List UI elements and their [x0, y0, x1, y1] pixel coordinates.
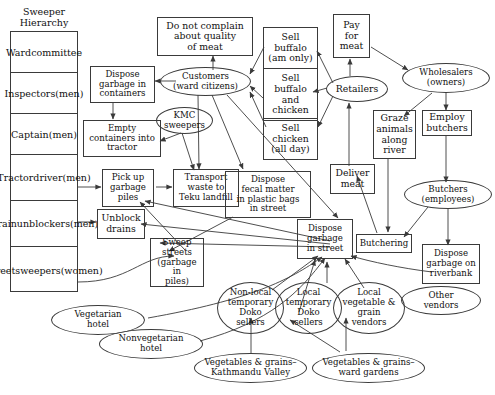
node-other-vendors[interactable]: Other vendors [401, 286, 481, 315]
node-label-line: Dispose [308, 223, 342, 233]
hierarchy-row-line: driver [33, 172, 62, 183]
node-label-line: temporary [286, 297, 332, 307]
node-vegetables-grains-kathmandu-valley[interactable]: Vegetables & grains– Kathmandu Valley [194, 353, 307, 383]
node-label-line: sweepers [164, 120, 205, 130]
node-label-line: Dispose [251, 174, 285, 184]
node-label-line: Other [428, 290, 453, 300]
node-deliver-meat[interactable]: Deliver meat [330, 164, 375, 194]
node-kmc-sweepers[interactable]: KMC sweepers [156, 107, 213, 134]
node-label-line: chicken [272, 133, 309, 144]
node-label-line: garbage [110, 182, 146, 192]
node-pay-for-meat[interactable]: Pay for meat [333, 14, 370, 58]
node-label-line: Butchering [360, 238, 409, 248]
diagram-canvas: Sweeper Hierarchy Ward committee Inspect… [0, 0, 495, 395]
node-label-line: meat [340, 40, 364, 51]
node-label-line: Local [357, 287, 381, 297]
node-unblock-drains[interactable]: Unblock drains [97, 209, 145, 239]
node-label-line: Sell [282, 72, 300, 83]
node-label-line: vendors [352, 317, 387, 327]
hierarchy-title: Sweeper Hierarchy [10, 6, 78, 28]
node-label-line: vegetable & [343, 297, 396, 307]
node-nonlocal-temporary-doko-sellers[interactable]: Non-local temporary Doko sellers [217, 282, 284, 334]
node-employ-butchers[interactable]: Employ butchers [422, 110, 472, 136]
node-label-line: in street [307, 243, 344, 253]
hierarchy-row-tractor-driver[interactable]: Tractor driver (men) [11, 155, 77, 201]
node-label-line: Doko [239, 307, 261, 317]
node-dispose-fecal-matter[interactable]: Dispose fecal matter in plastic bags in … [225, 171, 311, 218]
node-sell-chicken-all-day[interactable]: Sell chicken (all day) [263, 118, 318, 160]
hierarchy-row-line: Street [0, 265, 15, 276]
node-local-temporary-doko-sellers[interactable]: Local temporary Doko sellers [275, 282, 342, 334]
node-label-line: Non-local [230, 287, 272, 297]
node-label-line: butchers [426, 122, 468, 133]
node-label-line: about quality [174, 30, 236, 41]
sweeper-hierarchy-table: Ward committee Inspectors (men) Captain … [10, 31, 78, 292]
node-label-line: Kathmandu Valley [211, 367, 290, 377]
node-customers[interactable]: Customers (ward citizens) [160, 67, 251, 96]
node-label-line: Vegetarian [74, 309, 121, 319]
node-label-line: in plastic bags [236, 194, 299, 204]
node-sell-buffalo-and-chicken[interactable]: Sell buffalo and chicken [263, 68, 318, 121]
hierarchy-row-line: Drain [0, 218, 17, 229]
node-label-line: Wholesalers [419, 67, 472, 77]
node-label-line: drains [106, 223, 136, 234]
node-label-line: river [383, 144, 406, 155]
node-label-line: waste to [188, 182, 225, 192]
node-dispose-garbage-in-street[interactable]: Dispose garbage in street [297, 219, 353, 259]
node-label-line: Sell [282, 122, 300, 133]
node-label-line: Pay [343, 19, 360, 30]
hierarchy-row-line: (men) [49, 129, 77, 140]
node-label-line: Sell [282, 31, 300, 42]
node-label-line: Vegetables & grains– [322, 357, 414, 367]
node-label-line: Employ [429, 111, 464, 122]
node-label-line: Unblock [101, 212, 140, 223]
hierarchy-row-captain[interactable]: Captain (men) [11, 114, 77, 155]
node-label-line: in street [250, 203, 287, 213]
hierarchy-row-street-sweepers[interactable]: Street sweepers (women) [11, 247, 77, 293]
node-label-line: (ward citizens) [173, 81, 238, 91]
node-label-line: chicken [272, 104, 309, 115]
node-label-line: Do not complain [166, 20, 243, 31]
node-label-line: ward gardens [338, 367, 398, 377]
node-empty-containers-into-tractor[interactable]: Empty containers into tractor [83, 120, 161, 157]
node-label-line: containers [100, 88, 146, 98]
node-label-line: riverbank [430, 268, 472, 278]
node-label-line: temporary [228, 297, 274, 307]
node-label-line: along [381, 134, 407, 145]
hierarchy-row-inspectors[interactable]: Inspectors (men) [11, 73, 77, 114]
node-label-line: sellers [294, 317, 323, 327]
node-label-line: Doko [297, 307, 319, 317]
node-do-not-complain[interactable]: Do not complain about quality of meat [157, 17, 253, 56]
node-label-line: sellers [236, 317, 265, 327]
hierarchy-row-drain-unblockers[interactable]: Drain unblockers (men) [11, 201, 77, 247]
node-butchering[interactable]: Butchering [356, 234, 412, 253]
node-vegetables-grains-ward-gardens[interactable]: Vegetables & grains– ward gardens [312, 353, 425, 383]
node-label-line: tractor [107, 142, 137, 152]
node-nonvegetarian-hotel[interactable]: Nonvegetarian hotel [99, 329, 203, 359]
hierarchy-row-line: Ward [6, 47, 31, 58]
hierarchy-row-line: Captain [11, 129, 49, 140]
node-wholesalers[interactable]: Wholesalers (owners) [402, 63, 490, 93]
node-butchers-employees[interactable]: Butchers (employees) [404, 180, 492, 209]
node-retailers[interactable]: Retailers [326, 76, 388, 102]
hierarchy-row-ward-committee[interactable]: Ward committee [11, 32, 77, 73]
node-label-line: piles [118, 192, 139, 202]
node-label-line: Sweep [163, 237, 192, 247]
node-sweep-streets[interactable]: Sweep streets (garbage in piles) [150, 238, 204, 287]
node-label-line: Dispose [105, 69, 139, 79]
node-label-line: (employees) [422, 194, 475, 204]
node-graze-animals-along-river[interactable]: Graze animals along river [373, 110, 416, 159]
node-dispose-garbage-in-containers[interactable]: Dispose garbage in containers [90, 66, 155, 103]
hierarchy-row-line: unblockers [17, 218, 70, 229]
node-sell-buffalo-am-only[interactable]: Sell buffalo (am only) [263, 27, 318, 69]
hierarchy-row-line: (men) [63, 172, 91, 183]
node-label-line: animals [376, 123, 413, 134]
node-label-line: piles) [165, 276, 189, 286]
hierarchy-title-line1: Sweeper [23, 6, 65, 17]
node-label-line: and [282, 94, 299, 105]
node-local-vegetable-and-grain-vendors[interactable]: Local vegetable & grain vendors [333, 282, 405, 334]
hierarchy-row-line: committee [31, 47, 82, 58]
node-label-line: garbage in [99, 79, 146, 89]
node-pick-up-garbage-piles[interactable]: Pick up garbage piles [102, 169, 154, 207]
node-dispose-garbage-on-riverbank[interactable]: Dispose garbage on riverbank [422, 244, 480, 284]
